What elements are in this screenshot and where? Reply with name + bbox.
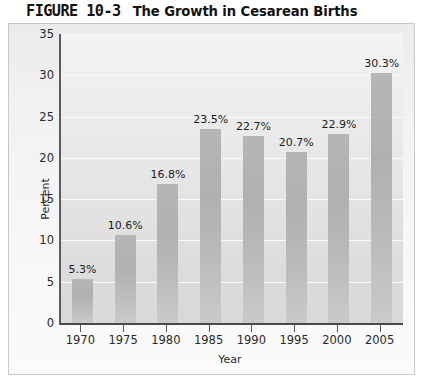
bar[interactable] (157, 184, 178, 323)
x-axis-tick-label: 1980 (151, 333, 180, 347)
x-axis-tick (123, 325, 124, 332)
x-axis-tick (80, 325, 81, 332)
bar-group[interactable]: 23.5% (200, 34, 221, 323)
x-axis-tick-labels: 19701975198019851990199520002005 (59, 333, 401, 349)
y-axis-tick-label: 10 (39, 233, 54, 247)
y-axis-tick-label: 35 (39, 27, 54, 41)
bar-group[interactable]: 5.3% (72, 34, 93, 323)
y-axis-tick-label: 5 (47, 275, 54, 289)
y-axis-title: Percent (39, 178, 52, 219)
y-axis-tick-label: 0 (47, 316, 54, 330)
figure-title: FIGURE 10-3 The Growth in Cesarean Birth… (22, 1, 357, 21)
bar-group[interactable]: 30.3% (371, 34, 392, 323)
y-axis-tick-label: 20 (39, 151, 54, 165)
bar-group[interactable]: 22.9% (328, 34, 349, 323)
x-axis-tick-label: 1975 (108, 333, 137, 347)
bar[interactable] (286, 152, 307, 323)
bars-layer: 5.3%10.6%16.8%23.5%22.7%20.7%22.9%30.3% (61, 34, 403, 323)
x-axis-ticks (59, 325, 401, 333)
x-axis-tick-label: 1985 (194, 333, 223, 347)
bar-value-label: 30.3% (364, 57, 399, 70)
figure-container: FIGURE 10-3 The Growth in Cesarean Birth… (0, 0, 423, 383)
chart-card: Percent 05101520253035 5.3%10.6%16.8%23.… (8, 23, 415, 375)
bar-value-label: 20.7% (279, 136, 314, 149)
bar[interactable] (371, 73, 392, 323)
x-axis-tick (166, 325, 167, 332)
x-axis-tick-label: 1990 (237, 333, 266, 347)
x-axis-tick (380, 325, 381, 332)
bar[interactable] (115, 235, 136, 323)
bar-group[interactable]: 16.8% (157, 34, 178, 323)
bar-group[interactable]: 20.7% (286, 34, 307, 323)
x-axis-tick (251, 325, 252, 332)
bar-value-label: 23.5% (193, 113, 228, 126)
x-axis-tick (337, 325, 338, 332)
bar[interactable] (243, 136, 264, 323)
x-axis-tick (209, 325, 210, 332)
y-axis-tick-label: 30 (39, 68, 54, 82)
figure-number: FIGURE 10-3 (26, 1, 120, 20)
bar-value-label: 16.8% (150, 168, 185, 181)
x-axis-tick-label: 1970 (66, 333, 95, 347)
x-axis-tick-label: 2005 (365, 333, 394, 347)
bar-value-label: 5.3% (68, 263, 96, 276)
bar-group[interactable]: 22.7% (243, 34, 264, 323)
x-axis-tick-label: 1995 (279, 333, 308, 347)
plot-area: 05101520253035 5.3%10.6%16.8%23.5%22.7%2… (59, 34, 403, 325)
bar-value-label: 10.6% (108, 219, 143, 232)
bar-group[interactable]: 10.6% (115, 34, 136, 323)
x-axis-tick-label: 2000 (322, 333, 351, 347)
bar-value-label: 22.9% (321, 118, 356, 131)
y-axis-tick-label: 25 (39, 110, 54, 124)
x-axis-tick (294, 325, 295, 332)
bar[interactable] (200, 129, 221, 323)
bar[interactable] (72, 279, 93, 323)
bar[interactable] (328, 134, 349, 323)
figure-caption: The Growth in Cesarean Births (133, 4, 358, 19)
bar-value-label: 22.7% (236, 120, 271, 133)
x-axis-title: Year (59, 353, 401, 366)
